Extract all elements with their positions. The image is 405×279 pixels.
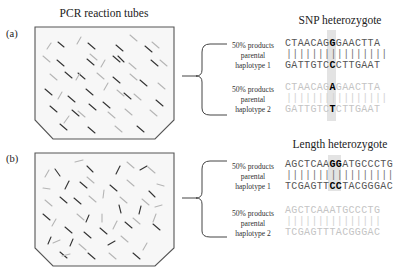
svg-text:|||||||||||||||||: |||||||||||||||||: [286, 170, 394, 181]
panel-b-hap2-caption: 50% products parental haplotype 2: [232, 209, 274, 238]
svg-text:parental: parental: [241, 51, 265, 60]
brace-b: [182, 161, 227, 237]
brace-a: [182, 44, 227, 115]
svg-text:||||||||||||||||: ||||||||||||||||: [286, 49, 388, 60]
svg-text:50% products: 50% products: [232, 162, 274, 171]
svg-text:|||||||||||||||: |||||||||||||||: [286, 216, 381, 227]
panel-b-label: (b): [6, 153, 19, 165]
svg-text:haplotype 1: haplotype 1: [235, 182, 271, 191]
panel-b-title: Length heterozygote: [293, 138, 388, 151]
pcr-tube-a: [35, 27, 174, 139]
panel-a-title: SNP heterozygote: [299, 14, 382, 27]
svg-text:AGCTCAAATGCCCTG: AGCTCAAATGCCCTG: [285, 205, 380, 216]
svg-text:||||||||||||||||: ||||||||||||||||: [286, 93, 388, 104]
panel-a-hap2-sequence: CTAACAGAGAACTTA |||||||||||||||| GATTGTC…: [285, 82, 388, 115]
pcr-heterozygote-figure: PCR reaction tubes (a): [0, 0, 405, 279]
svg-text:haplotype 2: haplotype 2: [235, 105, 271, 114]
panel-a-hap2-caption: 50% products parental haplotype 2: [232, 85, 274, 114]
panel-b-hap2-sequence: AGCTCAAATGCCCTG ||||||||||||||| TCGAGTTT…: [285, 205, 381, 238]
svg-text:GATTGTCTCTTGAAT: GATTGTCTCTTGAAT: [285, 104, 380, 115]
svg-text:parental: parental: [241, 219, 265, 228]
svg-text:haplotype 1: haplotype 1: [235, 61, 271, 70]
panel-a-hap1-sequence: CTAACAGGGAACTTA |||||||||||||||| GATTGTC…: [285, 38, 388, 71]
svg-text:GATTGTCCCTTGAAT: GATTGTCCCTTGAAT: [285, 60, 380, 71]
panel-a-label: (a): [6, 28, 18, 40]
svg-text:CTAACAGAGAACTTA: CTAACAGAGAACTTA: [285, 82, 380, 93]
svg-text:50% products: 50% products: [232, 41, 274, 50]
panel-a-hap1-caption: 50% products parental haplotype 1: [232, 41, 274, 70]
panel-a: (a): [6, 14, 388, 139]
svg-text:TCGAGTTTACGGGAC: TCGAGTTTACGGGAC: [285, 227, 380, 238]
svg-text:AGCTCAAGGATGCCCTG: AGCTCAAGGATGCCCTG: [285, 159, 393, 170]
panel-b-hap1-caption: 50% products parental haplotype 1: [232, 162, 274, 191]
panel-b: (b): [6, 138, 394, 266]
svg-text:TCGAGTTCCTACGGGAC: TCGAGTTCCTACGGGAC: [285, 181, 393, 192]
panel-b-hap1-sequence: AGCTCAAGGATGCCCTG ||||||||||||||||| TCGA…: [285, 159, 394, 192]
tubes-title: PCR reaction tubes: [60, 7, 149, 19]
svg-text:CTAACAGGGAACTTA: CTAACAGGGAACTTA: [285, 38, 380, 49]
svg-text:50% products: 50% products: [232, 85, 274, 94]
svg-text:haplotype 2: haplotype 2: [235, 229, 271, 238]
svg-text:50% products: 50% products: [232, 209, 274, 218]
svg-text:parental: parental: [241, 172, 265, 181]
svg-text:parental: parental: [241, 95, 265, 104]
